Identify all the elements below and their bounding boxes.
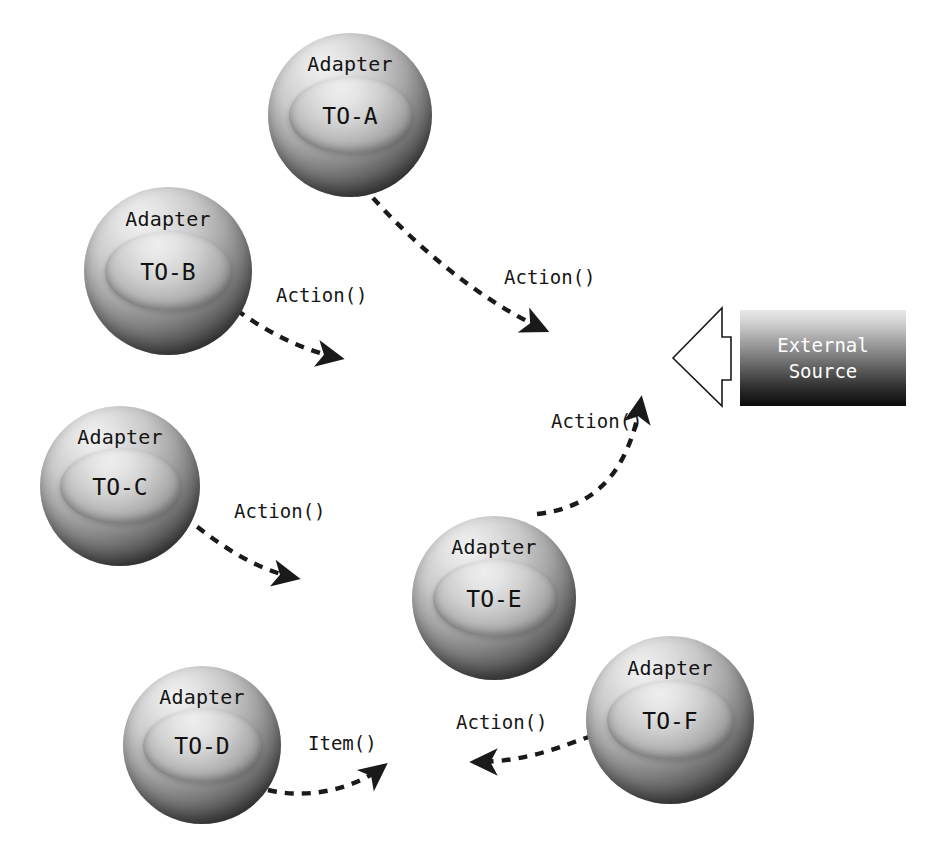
adapter-title: Adapter [84,209,252,229]
adapter-core: TO-D [143,709,262,783]
edge-label-d-item: Item() [308,734,377,753]
adapter-name: TO-D [143,734,262,757]
external-source-line-2: Source [789,358,858,384]
edge-label-e-src: Action() [551,412,643,431]
adapter-name: TO-E [433,587,556,610]
edge-path-d-item [268,766,384,794]
adapter-node-to-e[interactable]: Adapter TO-E [412,516,576,680]
adapter-node-to-f[interactable]: Adapter TO-F [586,636,754,804]
adapter-node-to-c[interactable]: Adapter TO-C [40,406,200,566]
adapter-title: Adapter [412,537,576,557]
diagram-canvas: Adapter TO-A Adapter TO-B Adapter TO-C A… [0,0,949,864]
adapter-title: Adapter [123,687,281,707]
external-source-box[interactable]: External Source [740,310,906,406]
edge-path-c-right [184,516,296,578]
adapter-title: Adapter [586,658,754,678]
adapter-node-to-d[interactable]: Adapter TO-D [123,666,281,824]
adapter-core: TO-C [60,449,180,524]
adapter-name: TO-C [60,475,180,498]
adapter-core: TO-E [433,560,556,637]
edge-path-f-e [474,736,592,762]
adapter-name: TO-F [607,709,733,732]
adapter-core: TO-A [289,77,412,154]
edge-label-c-right: Action() [234,502,326,521]
edge-path-a-src [373,198,545,330]
adapter-title: Adapter [40,427,200,447]
edge-label-a-src: Action() [504,268,596,287]
adapter-name: TO-A [289,104,412,127]
block-arrow-left-icon [673,308,731,406]
adapter-name: TO-B [105,260,231,283]
adapter-core: TO-B [105,232,231,311]
adapter-core: TO-F [607,681,733,760]
adapter-node-to-b[interactable]: Adapter TO-B [84,187,252,355]
edge-label-f-e: Action() [456,713,548,732]
adapter-node-to-a[interactable]: Adapter TO-A [268,33,432,197]
adapter-title: Adapter [268,54,432,74]
edge-label-b-right: Action() [276,286,368,305]
external-source-line-1: External [777,332,869,358]
